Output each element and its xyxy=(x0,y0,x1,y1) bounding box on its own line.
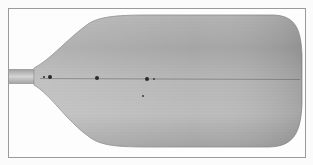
shaft xyxy=(9,69,35,84)
paddle-illustration xyxy=(0,0,313,165)
paddle-photo xyxy=(0,0,313,165)
